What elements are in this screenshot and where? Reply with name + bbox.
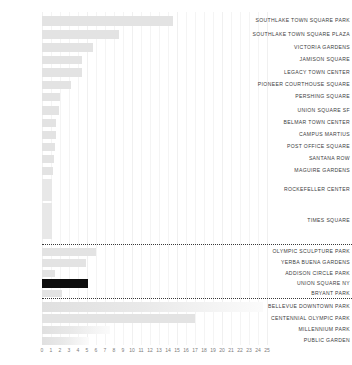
group-separator	[42, 298, 352, 299]
bar-row[interactable]	[42, 68, 267, 77]
bar[interactable]	[42, 290, 62, 297]
bar-row[interactable]	[42, 248, 267, 256]
bar[interactable]	[42, 16, 173, 26]
bar[interactable]	[42, 43, 93, 52]
bar-row[interactable]	[42, 30, 267, 39]
bar-row[interactable]	[42, 337, 267, 345]
bar[interactable]	[42, 143, 55, 151]
category-label: ADDISON CIRCLE PARK	[285, 271, 350, 276]
group-separator	[42, 244, 352, 245]
bar[interactable]	[42, 131, 56, 139]
bar[interactable]	[42, 270, 55, 277]
bar-row[interactable]	[42, 155, 267, 163]
bar-row[interactable]	[42, 119, 267, 127]
bar-row[interactable]	[42, 131, 267, 139]
category-label: ROCKEFELLER CENTER	[284, 187, 350, 192]
category-label: YERBA BUENA GARDENS	[281, 260, 350, 265]
bar[interactable]	[42, 56, 82, 64]
category-label: POST OFFICE SQUARE	[287, 144, 350, 149]
category-label: LEGACY TOWN CENTER	[284, 70, 350, 75]
bar-row[interactable]	[42, 302, 267, 312]
bar-row[interactable]	[42, 179, 267, 201]
bar[interactable]	[42, 179, 52, 201]
bar-row[interactable]	[42, 326, 267, 334]
category-label: SOUTHLAKE TOWN SQUARE PLAZA	[252, 32, 350, 37]
category-label: BELLEVUE DOWNTOWN PARK	[268, 304, 350, 309]
category-label: MILLENNIUM PARK	[298, 327, 350, 332]
bar[interactable]	[42, 81, 71, 89]
bar[interactable]	[42, 167, 53, 175]
bar-row[interactable]	[42, 106, 267, 115]
bar-row[interactable]	[42, 56, 267, 64]
category-label: UNION SQUARE SF	[297, 108, 350, 113]
category-label: OLYMPIC SCULPTURE PARK	[273, 249, 350, 254]
bar-row[interactable]	[42, 93, 267, 101]
bar[interactable]	[42, 259, 86, 267]
bar[interactable]	[42, 326, 110, 334]
bar[interactable]	[42, 314, 195, 323]
bar[interactable]	[42, 203, 52, 239]
category-label: JAMISON SQUARE	[300, 57, 350, 62]
category-label: MAGUIRE GARDENS	[294, 168, 350, 173]
bar[interactable]	[42, 302, 263, 312]
bar[interactable]	[42, 106, 59, 115]
category-label: BRYANT PARK	[311, 291, 350, 296]
category-label: BELMAR TOWN CENTER	[284, 120, 350, 125]
bar[interactable]	[42, 30, 119, 39]
gridline	[267, 12, 268, 345]
category-label: PUBLIC GARDEN	[304, 338, 350, 343]
bar-row[interactable]	[42, 167, 267, 175]
bar-row[interactable]	[42, 270, 267, 277]
category-label: SANTANA ROW	[309, 156, 350, 161]
bar-row[interactable]	[42, 279, 267, 288]
category-label: TIMES SQUARE	[307, 218, 350, 223]
bar-row[interactable]	[42, 43, 267, 52]
category-label: CAMPUS MARTIUS	[299, 132, 350, 137]
plot-area	[42, 12, 267, 345]
bar[interactable]	[42, 68, 82, 77]
category-label: VICTORIA GARDENS	[294, 45, 350, 50]
bar[interactable]	[42, 155, 54, 163]
bar[interactable]	[42, 279, 88, 288]
category-label: CENTENNIAL OLYMPIC PARK	[271, 316, 350, 321]
x-tick-label: 25	[262, 348, 272, 353]
bar-row[interactable]	[42, 290, 267, 297]
bar-row[interactable]	[42, 314, 267, 323]
bar-row[interactable]	[42, 16, 267, 26]
horizontal-bar-chart: SOUTHLAKE TOWN SQUARE PARKSOUTHLAKE TOWN…	[0, 0, 352, 365]
category-label: SOUTHLAKE TOWN SQUARE PARK	[255, 18, 350, 23]
bar-row[interactable]	[42, 143, 267, 151]
x-axis: 0123456789101112131415161718192021222324…	[0, 348, 352, 360]
bar-row[interactable]	[42, 203, 267, 239]
bar[interactable]	[42, 248, 96, 256]
bar[interactable]	[42, 119, 56, 127]
category-label: UNION SQUARE NY	[297, 281, 350, 286]
bar-row[interactable]	[42, 259, 267, 267]
bar-row[interactable]	[42, 81, 267, 89]
category-label: PERSHING SQUARE	[295, 94, 350, 99]
bar[interactable]	[42, 93, 60, 101]
category-label: PIONEER COURTHOUSE SQUARE	[258, 82, 350, 87]
bar[interactable]	[42, 337, 89, 345]
